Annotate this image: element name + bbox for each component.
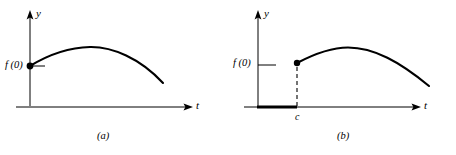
t-axis-a (16, 104, 193, 111)
t-axis-label-b: t (424, 100, 427, 111)
y-axis-a (27, 10, 34, 106)
panel-a-plot (0, 0, 228, 155)
start-point-dot-b (294, 60, 300, 66)
f-of-zero-label-b: f (0) (233, 58, 251, 69)
curve-a (30, 47, 163, 83)
panel-caption-b: (b) (337, 131, 349, 142)
y-axis-label-a: y (36, 8, 41, 19)
y-axis-label-b: y (264, 8, 269, 19)
curve-b (297, 48, 429, 87)
figure-panel-b: y t f (0) c (b) (228, 0, 456, 155)
panel-caption-a: (a) (97, 131, 109, 142)
figure-panel-a: y t f (0) (a) (0, 0, 228, 155)
t-axis-label-a: t (196, 100, 199, 111)
f-of-zero-label-a: f (0) (5, 60, 23, 71)
figure-root: y t f (0) (a) (0, 0, 456, 155)
start-point-dot-a (27, 63, 34, 70)
y-axis-b (255, 10, 262, 106)
c-point-label-b: c (295, 112, 299, 122)
